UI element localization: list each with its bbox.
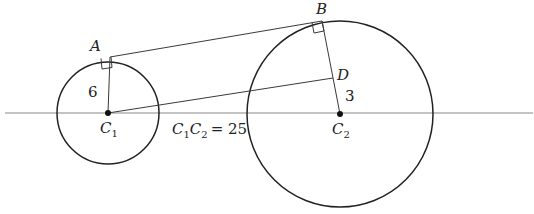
tangent-line-ab — [110, 21, 322, 57]
radius-c1-a — [108, 57, 110, 113]
label-segment-3: 3 — [345, 87, 355, 105]
center-dot-c2 — [337, 111, 343, 117]
geometry-diagram: A B D C1 C2 6 3 C1C2= 25 — [0, 0, 534, 214]
label-a: A — [88, 37, 101, 55]
label-c2: C2 — [332, 120, 350, 140]
label-d: D — [336, 66, 349, 84]
label-b: B — [315, 0, 327, 18]
center-dot-c1 — [105, 110, 111, 116]
label-distance-c1c2: C1C2= 25 — [172, 120, 247, 140]
label-c1: C1 — [100, 119, 118, 139]
segment-c1-d — [108, 78, 333, 113]
label-radius-6: 6 — [88, 83, 98, 101]
